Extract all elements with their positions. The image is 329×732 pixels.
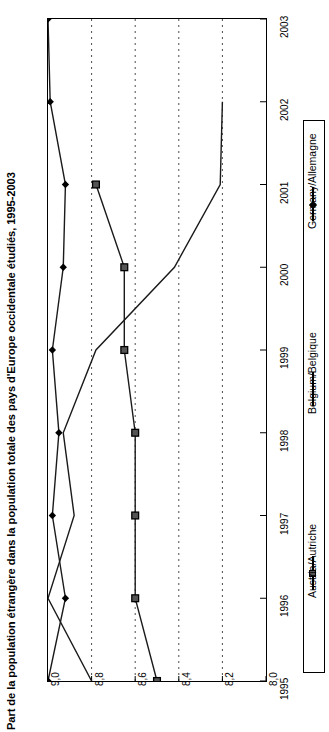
data-point-marker — [121, 347, 128, 354]
data-point-marker — [93, 181, 100, 188]
data-point-marker — [60, 264, 67, 271]
value-tick-label: 8,8 — [95, 646, 105, 686]
data-point-marker — [132, 512, 139, 519]
year-tick-label-1998: 1998 — [280, 408, 290, 452]
data-point-marker — [62, 181, 69, 188]
data-point-marker — [132, 595, 139, 602]
chart-legend: Austria/AutricheBelgium/BelgiqueGermany/… — [303, 120, 325, 673]
legend-label: Austria/Autriche — [307, 524, 318, 598]
data-point-marker — [132, 429, 139, 436]
legend-entry-0[interactable]: Austria/Autriche — [304, 490, 326, 674]
value-tick-label: 8,4 — [182, 646, 192, 686]
data-point-marker — [49, 346, 56, 353]
year-tick-label-1996: 1996 — [280, 573, 290, 617]
year-tick-label-1995: 1995 — [280, 656, 290, 700]
year-tick-label-1999: 1999 — [280, 325, 290, 369]
year-tick-label-1997: 1997 — [280, 491, 290, 535]
year-tick-label-2003: 2003 — [280, 0, 290, 38]
data-point-marker — [48, 98, 54, 105]
data-point-marker — [154, 678, 161, 681]
legend-label: Germany/Allemagne — [307, 134, 318, 230]
year-tick-label-2002: 2002 — [280, 77, 290, 121]
legend-entry-1[interactable]: Belgium/Belgique — [304, 305, 326, 489]
year-tick-label-2000: 2000 — [280, 242, 290, 286]
data-point-marker — [49, 512, 56, 519]
page-title: Part de la population étrangère dans la … — [0, 0, 22, 732]
data-point-marker — [121, 264, 128, 271]
legend-label: Belgium/Belgique — [307, 332, 318, 414]
year-tick-label-2001: 2001 — [280, 160, 290, 204]
chart-plot-area — [47, 18, 267, 682]
series-line-0 — [96, 185, 157, 682]
value-tick-label: 8,2 — [225, 646, 235, 686]
value-tick-label: 8,0 — [269, 646, 279, 686]
legend-entry-2[interactable]: Germany/Allemagne — [304, 121, 326, 305]
data-point-marker — [55, 429, 62, 436]
value-tick-label: 9,0 — [51, 646, 61, 686]
data-point-marker — [62, 595, 69, 602]
value-tick-label: 8,6 — [138, 646, 148, 686]
chart-canvas — [48, 19, 266, 681]
